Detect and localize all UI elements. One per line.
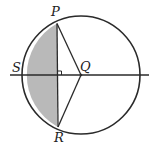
radius-qr bbox=[58, 75, 81, 127]
point-q bbox=[80, 74, 83, 77]
geometry-diagram: P Q R S bbox=[0, 0, 152, 149]
label-s: S bbox=[12, 60, 21, 75]
label-q: Q bbox=[80, 59, 91, 74]
radius-qp bbox=[57, 24, 81, 76]
chord-pr bbox=[57, 24, 58, 128]
label-r: R bbox=[53, 130, 64, 145]
label-p: P bbox=[50, 4, 60, 19]
